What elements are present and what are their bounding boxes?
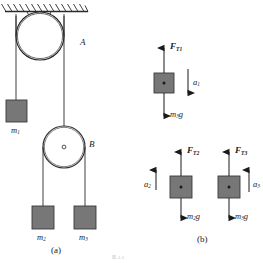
label-mass-m2: m2 xyxy=(37,233,46,242)
figure-artwork xyxy=(0,0,263,263)
pulley-b xyxy=(43,126,85,168)
label-weight-m3g-upper: m3g xyxy=(170,110,183,119)
caption-panel-a: (a) xyxy=(51,245,61,255)
label-mass-m1: m1 xyxy=(11,126,20,135)
label-weight-m3g-lower: m3g xyxy=(235,212,248,221)
label-tension-t2: FT2 xyxy=(187,146,199,155)
block-m3 xyxy=(74,206,96,229)
fbd-m2 xyxy=(156,152,192,218)
ceiling-support xyxy=(2,4,89,12)
label-accel-a3: a3 xyxy=(253,180,260,189)
label-accel-a2: a2 xyxy=(144,180,151,189)
label-pulley-b: B xyxy=(89,140,95,149)
caption-panel-b: (b) xyxy=(197,234,208,244)
block-m1 xyxy=(6,100,27,122)
pulley-a xyxy=(16,12,64,60)
label-tension-t1: FT1 xyxy=(170,42,182,51)
label-pulley-a: A xyxy=(80,38,86,47)
bottom-watermark: 图 4-4 xyxy=(112,254,124,260)
label-mass-m3: m3 xyxy=(79,233,88,242)
physics-figure: A B m1 m2 m3 (a) FT1 m3g a1 FT2 m2g a2 F… xyxy=(0,0,263,263)
label-tension-t3: FT3 xyxy=(235,146,247,155)
fbd-m3-lower xyxy=(218,152,249,218)
fbd-m3-upper xyxy=(154,48,188,116)
label-weight-m2g: m2g xyxy=(187,212,200,221)
label-accel-a1: a1 xyxy=(193,78,200,87)
block-m2 xyxy=(32,206,54,229)
